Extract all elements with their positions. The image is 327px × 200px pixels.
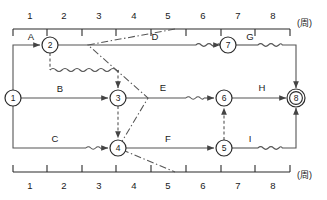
bottom-axis-label-7: 7 — [235, 180, 240, 191]
node-4-label: 4 — [116, 143, 121, 153]
node-7-label: 7 — [226, 40, 231, 50]
node-5-label: 5 — [222, 143, 227, 153]
node-1-label: 1 — [11, 93, 16, 103]
node-2[interactable]: 2 — [42, 37, 58, 53]
top-axis-label-5: 5 — [165, 10, 170, 21]
float-wave-C — [86, 147, 104, 150]
node-2-label: 2 — [48, 40, 53, 50]
bottom-time-axis: 1 2 3 4 5 6 7 8 (周) — [13, 165, 312, 191]
bottom-axis-label-2: 2 — [61, 180, 66, 191]
activity-label-D: D — [152, 31, 159, 42]
bottom-axis-label-8: 8 — [270, 180, 275, 191]
float-wave-G — [258, 44, 282, 47]
activity-label-F: F — [165, 133, 171, 144]
node-3[interactable]: 3 — [110, 90, 126, 106]
top-axis-label-3: 3 — [96, 10, 101, 21]
activity-label-C: C — [52, 133, 59, 144]
node-4[interactable]: 4 — [110, 140, 126, 156]
top-axis-label-7: 7 — [235, 10, 240, 21]
activity-label-E: E — [160, 82, 166, 93]
top-axis-label-8: 8 — [270, 10, 275, 21]
activity-label-H: H — [259, 82, 266, 93]
top-axis-label-2: 2 — [61, 10, 66, 21]
activity-edge-A — [13, 45, 40, 90]
activity-label-I: I — [249, 133, 252, 144]
float-wave-D — [196, 44, 220, 47]
float-wave-E — [186, 97, 204, 100]
bottom-axis-label-1: 1 — [27, 180, 32, 191]
time-scale-marker — [88, 29, 175, 172]
node-7[interactable]: 7 — [220, 37, 236, 53]
node-6-label: 6 — [222, 93, 227, 103]
top-axis-label-1: 1 — [27, 10, 32, 21]
top-axis-label-4: 4 — [131, 10, 136, 21]
network-diagram-page: 1 2 3 4 5 6 7 8 (周) 1 2 3 4 5 6 7 8 (周) — [0, 0, 327, 200]
node-3-label: 3 — [116, 93, 121, 103]
top-time-axis: 1 2 3 4 5 6 7 8 (周) — [13, 10, 312, 36]
float-wave-dummy-2-3 — [50, 69, 118, 72]
activity-edge-I-tail — [282, 108, 296, 148]
bottom-axis-label-3: 3 — [96, 180, 101, 191]
bottom-axis-label-5: 5 — [165, 180, 170, 191]
node-6[interactable]: 6 — [216, 90, 232, 106]
float-wave-I — [258, 147, 282, 150]
activity-label-G: G — [246, 31, 253, 42]
node-8-label: 8 — [294, 93, 299, 103]
bottom-axis-unit-label: (周) — [297, 170, 312, 180]
activity-edge-G-tail — [282, 45, 296, 88]
node-5[interactable]: 5 — [216, 140, 232, 156]
top-axis-unit-label: (周) — [297, 18, 312, 28]
node-8[interactable]: 8 — [287, 89, 305, 107]
bottom-axis-label-4: 4 — [131, 180, 136, 191]
activity-label-B: B — [57, 83, 63, 94]
top-axis-label-6: 6 — [200, 10, 205, 21]
node-1[interactable]: 1 — [5, 90, 21, 106]
activity-edge-C — [13, 106, 86, 148]
time-scale-marker-line — [88, 29, 175, 172]
activity-label-A: A — [28, 31, 35, 42]
bottom-axis-label-6: 6 — [200, 180, 205, 191]
network-diagram-canvas: 1 2 3 4 5 6 7 8 (周) 1 2 3 4 5 6 7 8 (周) — [0, 0, 327, 200]
